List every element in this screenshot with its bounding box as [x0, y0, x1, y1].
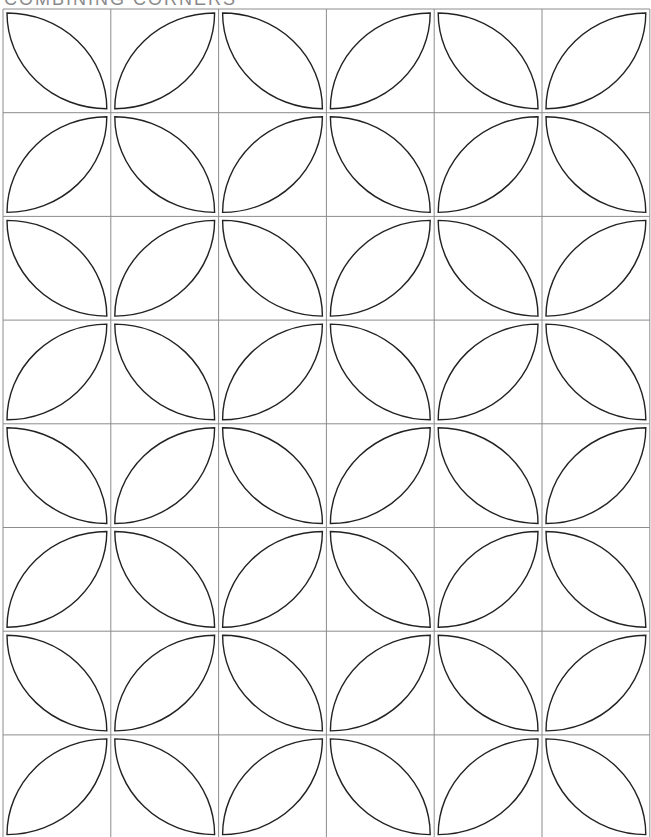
orange-peel-pattern	[0, 0, 651, 837]
petal-shape	[223, 324, 323, 420]
petal-shape	[438, 13, 538, 109]
petal-shape	[115, 739, 215, 835]
petal-shape	[115, 117, 215, 213]
petal-shape	[546, 532, 646, 628]
petal-shape	[115, 13, 215, 109]
petal-shape	[330, 324, 430, 420]
petal-shape	[546, 635, 646, 731]
petal-shape	[330, 635, 430, 731]
petal-shape	[438, 739, 538, 835]
petal-shape	[546, 324, 646, 420]
petal-shape	[438, 428, 538, 524]
petal-shape	[438, 324, 538, 420]
petal-shape	[223, 532, 323, 628]
petal-shape	[7, 324, 107, 420]
petal-shape	[330, 739, 430, 835]
petal-shape	[330, 428, 430, 524]
petal-shape	[7, 428, 107, 524]
petal-shape	[223, 635, 323, 731]
petal-shape	[330, 220, 430, 316]
petal-shape	[7, 532, 107, 628]
petal-shape	[115, 635, 215, 731]
petal-shape	[546, 220, 646, 316]
petal-shape	[223, 117, 323, 213]
petal-shape	[115, 220, 215, 316]
petal-shape	[7, 739, 107, 835]
petal-shape	[330, 117, 430, 213]
petal-shape	[330, 532, 430, 628]
petal-shape	[546, 13, 646, 109]
petal-shape	[7, 117, 107, 213]
petal-shape	[223, 428, 323, 524]
petal-shape	[223, 13, 323, 109]
petal-shape	[330, 13, 430, 109]
petal-shape	[438, 117, 538, 213]
petal-shape	[546, 117, 646, 213]
petal-shape	[223, 739, 323, 835]
petal-shape	[115, 428, 215, 524]
petal-shape	[546, 739, 646, 835]
petal-shape	[438, 532, 538, 628]
petal-shape	[223, 220, 323, 316]
petal-shape	[438, 220, 538, 316]
petal-shape	[546, 428, 646, 524]
petal-shape	[7, 13, 107, 109]
petal-shape	[115, 532, 215, 628]
petal-shape	[438, 635, 538, 731]
petal-shape	[7, 220, 107, 316]
petal-shape	[115, 324, 215, 420]
petal-shape	[7, 635, 107, 731]
